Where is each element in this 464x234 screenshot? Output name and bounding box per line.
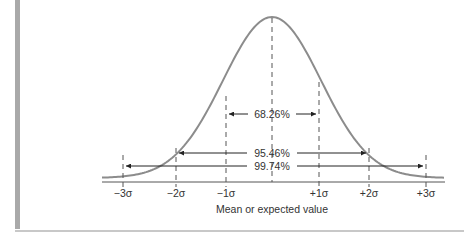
x-tick-labels: −3σ −2σ −1σ +1σ +2σ +3σ xyxy=(114,187,436,199)
tick-plus3: +3σ xyxy=(417,187,436,199)
interval-95: 95.46% xyxy=(179,147,366,159)
tick-minus1: −1σ xyxy=(217,187,236,199)
interval-68: 68.26% xyxy=(229,108,316,120)
tick-plus1: +1σ xyxy=(310,187,329,199)
tick-plus2: +2σ xyxy=(360,187,379,199)
bell-curve-diagram: 68.26% 95.46% 99.74% −3σ −2σ −1σ +1σ +2σ… xyxy=(0,0,464,234)
tick-minus2: −2σ xyxy=(167,187,186,199)
interval-95-label: 95.46% xyxy=(254,147,290,159)
tick-minus3: −3σ xyxy=(114,187,133,199)
normal-distribution-figure: 68.26% 95.46% 99.74% −3σ −2σ −1σ +1σ +2σ… xyxy=(0,0,464,234)
interval-99-label: 99.74% xyxy=(254,160,290,172)
x-axis-title: Mean or expected value xyxy=(216,203,328,215)
interval-68-label: 68.26% xyxy=(254,108,290,120)
